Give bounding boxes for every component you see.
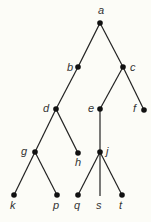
edge-g-k	[14, 152, 35, 195]
node-label-c: c	[130, 61, 136, 73]
node-f	[141, 107, 147, 113]
node-label-a: a	[98, 4, 104, 16]
node-a	[97, 20, 103, 26]
node-label-s: s	[96, 199, 102, 211]
edge-c-e	[100, 67, 123, 109]
node-c	[120, 64, 126, 70]
edges-layer	[14, 23, 144, 196]
node-d	[53, 106, 59, 112]
node-p	[54, 192, 60, 198]
node-label-k: k	[10, 199, 16, 211]
node-k	[11, 192, 17, 198]
node-label-p: p	[52, 199, 59, 211]
edge-g-p	[35, 152, 57, 195]
edge-a-c	[100, 23, 123, 67]
nodes-layer	[11, 20, 147, 198]
node-label-j: j	[104, 145, 109, 157]
labels-layer: abcdefghjkpqst	[10, 4, 137, 211]
edge-d-h	[56, 109, 78, 153]
node-q	[75, 192, 81, 198]
node-g	[32, 149, 38, 155]
node-b	[75, 64, 81, 70]
node-label-e: e	[88, 102, 94, 114]
node-label-g: g	[21, 145, 28, 157]
edge-d-g	[35, 109, 56, 152]
edge-a-b	[78, 23, 100, 67]
node-label-f: f	[133, 102, 137, 114]
node-e	[97, 106, 103, 112]
node-label-b: b	[67, 61, 73, 73]
node-t	[119, 192, 125, 198]
edge-j-q	[78, 152, 100, 195]
edge-b-d	[56, 67, 78, 109]
node-label-d: d	[43, 102, 50, 114]
tree-graph: abcdefghjkpqst	[0, 0, 151, 222]
tree-diagram: abcdefghjkpqst	[0, 0, 151, 222]
edge-j-t	[100, 152, 122, 195]
node-label-q: q	[74, 199, 81, 211]
node-label-t: t	[119, 199, 123, 211]
node-label-h: h	[75, 156, 81, 168]
node-h	[75, 150, 81, 156]
node-j	[97, 149, 103, 155]
